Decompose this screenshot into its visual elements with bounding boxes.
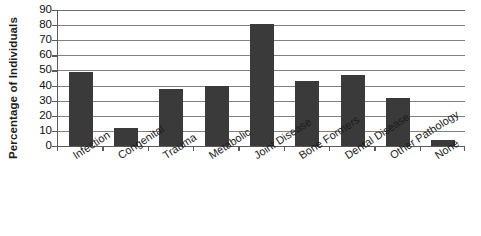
x-tick bbox=[57, 146, 58, 151]
y-tick-label: 20 bbox=[39, 110, 52, 122]
y-tick-label: 70 bbox=[39, 34, 52, 46]
x-tick bbox=[420, 146, 421, 151]
bars-layer bbox=[58, 10, 465, 146]
bar-bone-formers[interactable] bbox=[295, 81, 319, 146]
y-axis-tick-labels: 9080706050403020100 bbox=[26, 10, 52, 146]
y-axis-title: Percentage of Individuals bbox=[0, 0, 26, 175]
y-tick-label: 50 bbox=[39, 65, 52, 77]
y-tick-label: 10 bbox=[39, 125, 52, 137]
x-tick bbox=[284, 146, 285, 151]
x-tick bbox=[102, 146, 103, 151]
x-tick bbox=[464, 146, 465, 151]
y-tick-label: 90 bbox=[39, 4, 52, 16]
x-tick bbox=[193, 146, 194, 151]
x-tick bbox=[238, 146, 239, 151]
y-axis-title-text: Percentage of Individuals bbox=[7, 17, 19, 159]
y-tick-label: 60 bbox=[39, 50, 52, 62]
bar-joint-disease[interactable] bbox=[250, 24, 274, 146]
y-tick-label: 80 bbox=[39, 19, 52, 31]
bar-slot bbox=[103, 10, 148, 146]
bar-metabolic[interactable] bbox=[205, 86, 229, 146]
x-tick bbox=[329, 146, 330, 151]
y-tick-label: 30 bbox=[39, 95, 52, 107]
y-tick-label: 40 bbox=[39, 80, 52, 92]
x-tick bbox=[148, 146, 149, 151]
bar-chart: Percentage of Individuals 90807060504030… bbox=[0, 0, 481, 236]
bar-dental-disease[interactable] bbox=[341, 75, 365, 146]
bar-infection[interactable] bbox=[69, 72, 93, 146]
x-tick bbox=[374, 146, 375, 151]
bar-slot bbox=[58, 10, 103, 146]
bar-slot bbox=[194, 10, 239, 146]
x-axis-category-labels: InfectionCongenitalTraumaMetabolicJoint … bbox=[57, 152, 481, 236]
